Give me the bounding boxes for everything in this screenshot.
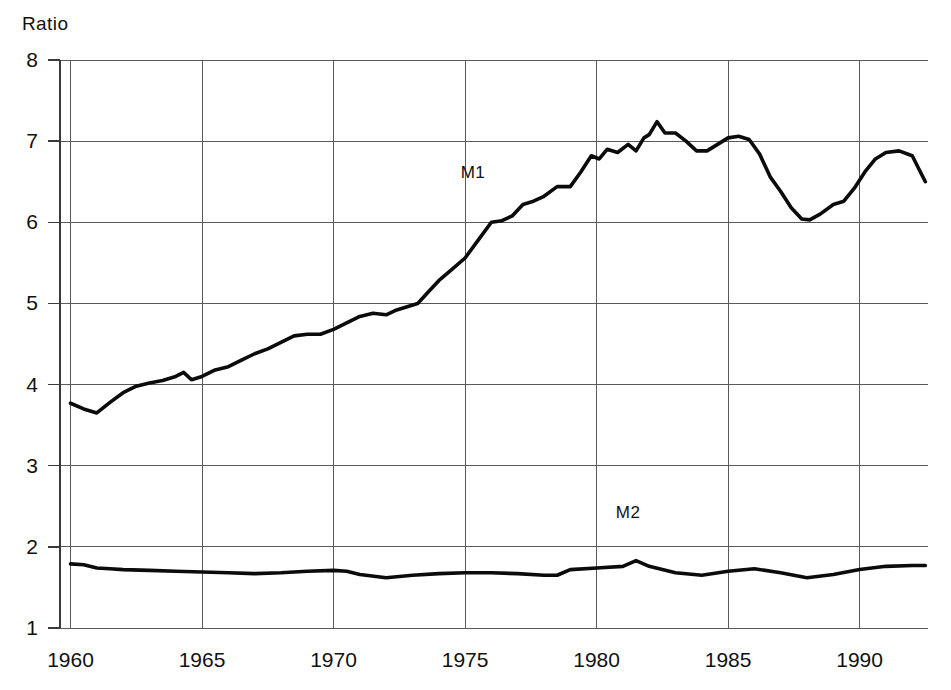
y-tick-label-7: 7 xyxy=(26,129,38,152)
chart-figure: Ratio 12345678 1960196519701975198019851… xyxy=(0,0,951,690)
y-tick-label-4: 4 xyxy=(26,373,38,396)
y-tick-label-3: 3 xyxy=(26,454,38,477)
y-tick-label-8: 8 xyxy=(26,48,38,71)
series-label-m1: M1 xyxy=(461,163,486,182)
x-axis-tick-labels: 1960196519701975198019851990 xyxy=(47,648,883,671)
y-tick-label-5: 5 xyxy=(26,291,38,314)
series-label-m2: M2 xyxy=(616,503,641,522)
series-annotations: M1M2 xyxy=(461,163,641,523)
y-axis-ticks xyxy=(48,60,60,628)
x-tick-label-1970: 1970 xyxy=(310,648,357,671)
series-line-m2 xyxy=(71,561,926,578)
data-series-group xyxy=(71,122,926,578)
y-axis-title: Ratio xyxy=(22,13,68,34)
vertical-gridlines xyxy=(71,60,860,628)
x-tick-label-1965: 1965 xyxy=(179,648,226,671)
y-tick-label-6: 6 xyxy=(26,210,38,233)
series-line-m1 xyxy=(71,122,926,413)
x-tick-label-1975: 1975 xyxy=(442,648,489,671)
ratio-line-chart: Ratio 12345678 1960196519701975198019851… xyxy=(0,0,951,690)
y-axis-tick-labels: 12345678 xyxy=(26,48,38,639)
x-tick-label-1980: 1980 xyxy=(573,648,620,671)
y-tick-label-2: 2 xyxy=(26,535,38,558)
y-tick-label-1: 1 xyxy=(26,616,38,639)
x-tick-label-1960: 1960 xyxy=(47,648,94,671)
x-tick-label-1985: 1985 xyxy=(705,648,752,671)
x-tick-label-1990: 1990 xyxy=(836,648,883,671)
horizontal-gridlines xyxy=(60,60,928,628)
